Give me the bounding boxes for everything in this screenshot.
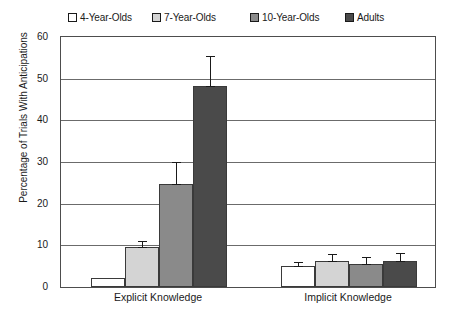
legend-item: 4-Year-Olds <box>68 10 132 24</box>
error-bar-cap <box>362 264 371 265</box>
y-axis-tick-label: 20 <box>37 199 48 209</box>
error-bar-cap <box>328 261 337 262</box>
bar <box>125 247 159 287</box>
figure: 4-Year-Olds7-Year-Olds10-Year-OldsAdults… <box>0 0 449 314</box>
bar <box>349 264 383 287</box>
y-axis-tick-label: 50 <box>37 74 48 84</box>
plot-area <box>60 36 436 288</box>
y-axis-tick-label: 40 <box>37 115 48 125</box>
bar <box>193 86 227 287</box>
legend-item-label: Adults <box>357 12 384 23</box>
error-bar-cap <box>294 266 303 267</box>
bar-series-container <box>61 37 435 287</box>
error-bar-cap <box>396 261 405 262</box>
legend-item: 10-Year-Olds <box>250 10 319 24</box>
error-bar <box>176 162 177 184</box>
legend-swatch-icon <box>152 13 161 22</box>
y-axis-tick-label: 10 <box>37 240 48 250</box>
legend-item-label: 10-Year-Olds <box>262 12 319 23</box>
bar <box>315 261 349 287</box>
bar <box>383 261 417 287</box>
bar <box>91 278 125 287</box>
x-axis-tick-label: Explicit Knowledge <box>114 291 202 303</box>
error-bar-cap <box>396 253 405 254</box>
error-bar-cap <box>294 262 303 263</box>
error-bar-cap <box>172 162 181 163</box>
error-bar-cap <box>138 247 147 248</box>
bar <box>281 266 315 287</box>
error-bar <box>210 56 211 86</box>
chart-legend: 4-Year-Olds7-Year-Olds10-Year-OldsAdults <box>0 10 449 26</box>
legend-item-label: 4-Year-Olds <box>80 12 132 23</box>
y-axis-tick-label: 0 <box>42 282 48 292</box>
y-axis-tick-label: 60 <box>37 32 48 42</box>
legend-swatch-icon <box>250 13 259 22</box>
legend-item: 7-Year-Olds <box>152 10 216 24</box>
y-axis-tick-label: 30 <box>37 157 48 167</box>
legend-item-label: 7-Year-Olds <box>164 12 216 23</box>
error-bar-cap <box>138 241 147 242</box>
error-bar <box>400 253 401 261</box>
error-bar-cap <box>172 184 181 185</box>
error-bar-cap <box>328 254 337 255</box>
y-axis-title: Percentage of Trials With Anticipations <box>18 3 29 233</box>
error-bar-cap <box>206 56 215 57</box>
error-bar-cap <box>362 257 371 258</box>
x-axis-tick-label: Implicit Knowledge <box>304 291 392 303</box>
legend-swatch-icon <box>345 13 354 22</box>
legend-item: Adults <box>345 10 384 24</box>
error-bar-cap <box>206 86 215 87</box>
legend-swatch-icon <box>68 13 77 22</box>
bar <box>159 184 193 287</box>
